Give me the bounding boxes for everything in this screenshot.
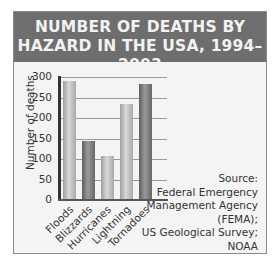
y-tick-50: 50 [14, 173, 52, 185]
source-line: (FEMA); [142, 213, 258, 227]
chart-frame: NUMBER OF DEATHS BY HAZARD IN THE USA, 1… [13, 11, 267, 254]
chart-title-line-1: NUMBER OF DEATHS BY [14, 18, 266, 37]
y-tick-250: 250 [14, 91, 52, 103]
bar-floods [63, 81, 76, 199]
source-line: Source: [142, 172, 258, 186]
bar-blizzards [82, 141, 95, 199]
y-tick-300: 300 [14, 70, 52, 82]
source-line: US Geological Survey; [142, 226, 258, 240]
bar-hurricanes [101, 156, 114, 199]
y-tick-100: 100 [14, 152, 52, 164]
source-line: Federal Emergency [142, 186, 258, 200]
y-tick-200: 200 [14, 111, 52, 123]
chart-title: NUMBER OF DEATHS BY HAZARD IN THE USA, 1… [14, 12, 266, 62]
source-line: Management Agency [142, 199, 258, 213]
y-axis-line [58, 76, 61, 201]
bar-lightning [120, 104, 133, 199]
source-line: NOAA [142, 240, 258, 254]
y-tick-0: 0 [14, 193, 52, 205]
y-tick-150: 150 [14, 132, 52, 144]
source-note: Source: Federal Emergency Management Age… [142, 172, 258, 253]
